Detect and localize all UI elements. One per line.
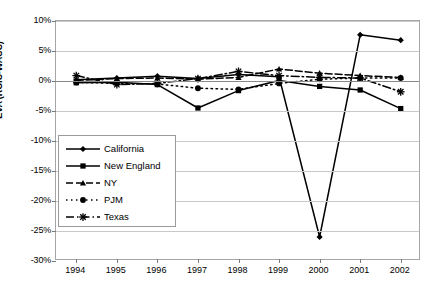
y-axis-tick xyxy=(52,171,56,172)
chart-container: EVA (ROIC-WACC) 10%5%0%-5%-10%-15%-20%-2… xyxy=(0,0,442,302)
gridline xyxy=(56,231,419,232)
x-axis-tick xyxy=(117,259,118,263)
legend-label: PJM xyxy=(102,195,123,205)
x-axis-tick xyxy=(198,259,199,263)
legend-label: Texas xyxy=(102,212,129,222)
y-axis-tick xyxy=(52,51,56,52)
data-point-marker xyxy=(398,37,404,43)
gridline xyxy=(56,21,419,22)
y-axis-tick-label: 10% xyxy=(3,16,51,25)
data-point-marker xyxy=(195,105,200,110)
data-point-marker xyxy=(79,213,87,221)
data-point-marker xyxy=(357,32,363,38)
data-point-marker xyxy=(80,197,86,203)
x-axis-tick-label: 1997 xyxy=(177,266,217,275)
x-axis-tick-label: 1999 xyxy=(258,266,298,275)
series-new-england xyxy=(74,78,404,111)
y-axis-tick-label: -30% xyxy=(3,256,51,265)
data-point-marker xyxy=(317,84,322,89)
gridline xyxy=(56,111,419,112)
y-axis-tick xyxy=(52,141,56,142)
zero-gridline xyxy=(56,81,419,82)
x-axis-tick-label: 2001 xyxy=(339,266,379,275)
y-axis-tick xyxy=(52,111,56,112)
data-point-marker xyxy=(80,145,86,151)
y-axis-tick-label: -25% xyxy=(3,226,51,235)
legend-symbol-circle-icon xyxy=(64,193,102,207)
y-axis-tick xyxy=(52,261,56,262)
y-axis-tick xyxy=(52,21,56,22)
data-point-marker xyxy=(235,68,243,76)
data-point-marker xyxy=(397,88,405,96)
legend-label: New England xyxy=(102,161,161,171)
legend-item-california[interactable]: California xyxy=(59,140,175,157)
legend-label: NY xyxy=(102,178,117,188)
legend-item-pjm[interactable]: PJM xyxy=(59,191,175,208)
x-axis-tick-label: 1995 xyxy=(96,266,136,275)
legend-item-ny[interactable]: NY xyxy=(59,174,175,191)
x-axis-tick-label: 1996 xyxy=(136,266,176,275)
y-axis-tick xyxy=(52,201,56,202)
gridline xyxy=(56,51,419,52)
y-axis-tick-labels: 10%5%0%-5%-10%-15%-20%-25%-30% xyxy=(0,0,51,302)
data-point-marker xyxy=(80,163,85,168)
x-axis-tick xyxy=(76,259,77,263)
data-point-marker xyxy=(275,72,283,80)
x-axis-tick xyxy=(279,259,280,263)
legend-symbol-diamond-icon xyxy=(64,142,102,156)
data-point-marker xyxy=(72,72,80,80)
legend-symbol-triangle-icon xyxy=(64,176,102,190)
x-axis-tick-label: 2000 xyxy=(299,266,339,275)
y-axis-tick-label: -5% xyxy=(3,106,51,115)
data-point-marker xyxy=(195,85,201,91)
data-point-marker xyxy=(358,87,363,92)
y-axis-tick-label: -15% xyxy=(3,166,51,175)
x-axis-tick-label: 2002 xyxy=(380,266,420,275)
y-axis-tick-label: 5% xyxy=(3,46,51,55)
y-axis-tick xyxy=(52,231,56,232)
x-axis-tick-label: 1998 xyxy=(218,266,258,275)
y-axis-tick-label: 0% xyxy=(3,76,51,85)
y-axis-tick xyxy=(52,81,56,82)
x-axis-tick xyxy=(157,259,158,263)
data-point-marker xyxy=(317,234,323,240)
legend-label: California xyxy=(102,144,144,154)
legend-item-new-england[interactable]: New England xyxy=(59,157,175,174)
x-axis-tick xyxy=(401,259,402,263)
y-axis-tick-label: -20% xyxy=(3,196,51,205)
legend-symbol-asterisk-icon xyxy=(64,210,102,224)
x-axis-tick xyxy=(320,259,321,263)
legend-item-texas[interactable]: Texas xyxy=(59,208,175,225)
x-axis-tick xyxy=(360,259,361,263)
legend-symbol-square-icon xyxy=(64,159,102,173)
data-point-marker xyxy=(236,86,242,92)
x-axis-tick xyxy=(239,259,240,263)
y-axis-tick-label: -10% xyxy=(3,136,51,145)
x-axis-tick-label: 1994 xyxy=(55,266,95,275)
chart-legend: CaliforniaNew EnglandNYPJMTexas xyxy=(58,135,176,227)
